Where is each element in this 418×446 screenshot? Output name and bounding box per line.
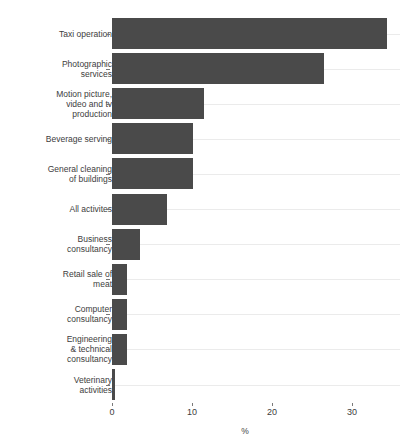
gridline [112, 244, 400, 245]
y-axis-label: Veterinary activities [12, 375, 112, 395]
bar-chart: Taxi operationPhotographic servicesMotio… [0, 0, 418, 446]
bar [112, 334, 127, 365]
x-axis-tick [192, 403, 193, 406]
y-axis-tick [106, 139, 110, 140]
y-axis-label: Business consultancy [12, 234, 112, 254]
y-axis-tick [106, 244, 110, 245]
x-axis-tick [352, 403, 353, 406]
y-axis-tick [106, 385, 110, 386]
bar [112, 229, 140, 260]
x-axis-tick-label: 10 [172, 407, 212, 417]
x-axis-tick [272, 403, 273, 406]
y-axis-tick [106, 69, 110, 70]
x-axis-title-text: % [241, 426, 249, 436]
bar [112, 123, 193, 154]
x-axis-tick-label: 30 [332, 407, 372, 417]
y-axis-tick [106, 279, 110, 280]
y-axis-tick [106, 314, 110, 315]
bar [112, 299, 127, 330]
y-axis-tick [106, 34, 110, 35]
plot-area [112, 16, 400, 402]
bar [112, 53, 324, 84]
y-axis-tick [106, 174, 110, 175]
gridline [112, 385, 400, 386]
gridline [112, 349, 400, 350]
bar [112, 88, 204, 119]
y-axis-label: Engineering & technical consultancy [12, 334, 112, 364]
y-axis-label: Motion picture, video and tv production [12, 89, 112, 119]
y-axis-label: Retail sale of meat [12, 269, 112, 289]
y-axis-label: Photographic services [12, 59, 112, 79]
bar [112, 158, 193, 189]
y-axis-label: General cleaning of buildings [12, 164, 112, 184]
bar [112, 194, 167, 225]
gridline [112, 314, 400, 315]
bar [112, 264, 127, 295]
x-axis-tick-label: 0 [92, 407, 132, 417]
y-axis-tick [106, 104, 110, 105]
bar [112, 18, 387, 49]
y-axis-label: All activites [12, 204, 112, 214]
y-axis-label: Beverage serving [12, 134, 112, 144]
bar [112, 369, 115, 400]
y-axis-tick [106, 349, 110, 350]
x-axis-tick [112, 403, 113, 406]
x-axis-tick-label: 20 [252, 407, 292, 417]
y-axis-label: Taxi operation [12, 29, 112, 39]
y-axis-tick [106, 209, 110, 210]
y-axis-label: Computer consultancy [12, 304, 112, 324]
gridline [112, 279, 400, 280]
x-axis-title: % [0, 426, 418, 436]
